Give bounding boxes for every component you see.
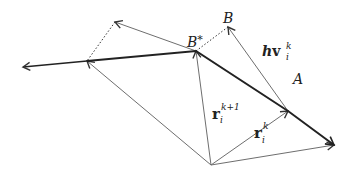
position-vectors [87,51,334,165]
polyline-seg-left [23,61,87,67]
label-r-k1-sup: k+1 [221,102,240,112]
vector-to-p1 [87,61,211,165]
label-r-k-sup: k [263,121,268,131]
label-a: A [291,71,303,87]
dotted-d1-p1 [87,22,115,61]
polyline [23,51,334,145]
label-b-star-sup: * [197,33,203,46]
label-b-star-letter: B [186,34,197,50]
polyline-update-diagram: B B* A hv k i r k+1 i r k i [0,0,354,181]
label-r-k-sub: i [262,135,265,145]
vector-to-d1 [115,22,196,51]
label-hv: hv [262,43,281,59]
vector-hv [228,27,288,111]
label-hv-sup: k [286,41,291,51]
label-b: B [222,10,233,26]
polyline-main [87,51,334,145]
label-hv-sub: i [286,52,289,62]
label-b-star: B* [186,33,203,50]
label-r-k1-sub: i [220,115,223,125]
vector-to-right [211,145,334,165]
vector-r-k1 [196,51,211,165]
label-hv-v: v [271,43,281,59]
label-hv-h: h [262,43,272,59]
